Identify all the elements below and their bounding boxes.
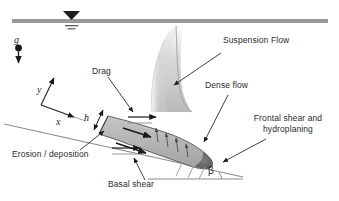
label-frontal-shear-line2: hydroplaning <box>240 124 336 134</box>
water-surface-group <box>12 11 328 29</box>
coordinate-axes <box>41 78 86 121</box>
label-axis-x: x <box>56 116 60 127</box>
label-thickness-h: h <box>84 112 89 123</box>
slope-angle-arc <box>219 173 222 180</box>
dense-flow-body <box>99 116 213 169</box>
label-gravity-g: g <box>14 34 19 45</box>
label-frontal-shear-line1: Frontal shear and <box>240 113 336 123</box>
gravity-vector-group <box>15 45 22 63</box>
y-axis-arrow <box>41 78 54 105</box>
label-suspension-flow: Suspension Flow <box>223 35 289 45</box>
drag-leader <box>108 77 133 112</box>
label-drag: Drag <box>92 66 111 76</box>
suspension-flow-plume <box>152 26 193 112</box>
surface-line <box>12 19 328 23</box>
label-erosion-deposition: Erosion / deposition <box>12 149 89 159</box>
water-level-dash-upper <box>65 25 78 26</box>
label-basal-shear: Basal shear <box>108 179 154 189</box>
water-level-triangle-icon <box>63 11 80 20</box>
water-level-dash-lower <box>68 28 76 29</box>
dense-flow-leader <box>204 95 228 142</box>
submarine-flow-diagram: Suspension Flow Dense flow Drag Frontal … <box>0 0 339 201</box>
frontal-stroke-2 <box>188 165 194 178</box>
dense-flow-shape <box>99 116 212 169</box>
thickness-indicator <box>94 110 103 130</box>
basal-shear-leader <box>134 158 145 180</box>
thickness-arrow <box>94 110 103 130</box>
erosion-deposition-leader <box>80 131 104 150</box>
label-axis-y: y <box>37 84 41 95</box>
label-dense-flow: Dense flow <box>205 80 248 90</box>
gravity-dot-icon <box>15 45 22 52</box>
diagram-canvas <box>0 0 339 201</box>
frontal-shear-leader <box>223 139 266 162</box>
label-slope-angle-beta: β <box>208 165 214 176</box>
frontal-stroke-1 <box>176 163 182 176</box>
